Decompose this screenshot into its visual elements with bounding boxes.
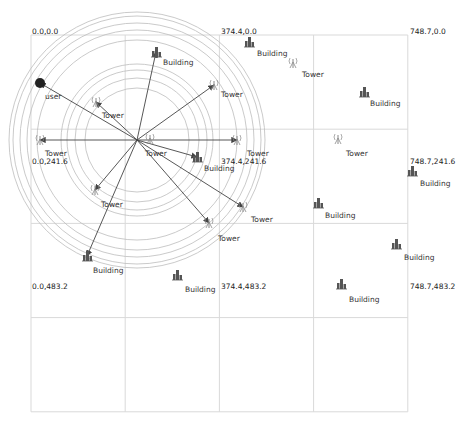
building-icon[interactable] xyxy=(391,239,402,249)
tower-label: Tower xyxy=(221,91,243,99)
tower-label: Tower xyxy=(302,71,324,79)
building-icon[interactable] xyxy=(244,37,255,47)
building-icon[interactable] xyxy=(359,87,370,97)
coord-label: 0.0,483.2 xyxy=(32,283,68,291)
building-icon[interactable] xyxy=(192,152,203,162)
building-label: Building xyxy=(163,59,193,67)
tower-icon[interactable] xyxy=(334,134,342,144)
link-arrow xyxy=(96,102,137,140)
building-label: Building xyxy=(370,100,400,108)
link-arrow xyxy=(95,140,137,190)
tower-label: Tower xyxy=(102,112,124,120)
user-dot[interactable] xyxy=(35,78,45,88)
tower-label: Tower xyxy=(101,201,123,209)
building-label: Building xyxy=(404,254,434,262)
tower-label: Tower xyxy=(145,150,167,158)
coord-label: 374.4,0.0 xyxy=(221,28,257,36)
user-label: user xyxy=(45,93,61,101)
building-label: Building xyxy=(257,50,287,58)
coord-label: 748.7,241.6 xyxy=(410,158,455,166)
coord-label: 0.0,0.0 xyxy=(32,28,58,36)
user-node[interactable] xyxy=(35,78,45,88)
coord-label: 374.4,483.2 xyxy=(221,283,266,291)
tower-icon[interactable] xyxy=(92,97,100,107)
tower-label: Tower xyxy=(218,235,240,243)
network-diagram xyxy=(0,0,466,428)
building-label: Building xyxy=(420,180,450,188)
building-label: Building xyxy=(325,212,355,220)
building-icon[interactable] xyxy=(82,251,93,261)
building-label: Building xyxy=(204,165,234,173)
link-arrow xyxy=(137,85,214,140)
building-label: Building xyxy=(93,267,123,275)
tower-label: Tower xyxy=(251,216,273,224)
coord-label: 0.0,241.6 xyxy=(32,158,68,166)
tower-icon[interactable] xyxy=(289,58,297,68)
tower-icon[interactable] xyxy=(210,80,218,90)
coord-label: 748.7,483.2 xyxy=(410,283,455,291)
tower-label: Tower xyxy=(346,150,368,158)
building-icon[interactable] xyxy=(407,166,418,176)
link-arrows xyxy=(40,52,243,256)
building-icon[interactable] xyxy=(172,270,183,280)
coord-label: 748.7,0.0 xyxy=(410,28,446,36)
link-arrow xyxy=(137,52,156,140)
tower-label: Tower xyxy=(45,150,67,158)
tower-label: Tower xyxy=(247,150,269,158)
building-label: Building xyxy=(185,286,215,294)
building-icon[interactable] xyxy=(336,279,347,289)
link-arrow xyxy=(87,140,137,256)
building-icon[interactable] xyxy=(151,47,162,57)
building-label: Building xyxy=(349,296,379,304)
building-icon[interactable] xyxy=(313,198,324,208)
